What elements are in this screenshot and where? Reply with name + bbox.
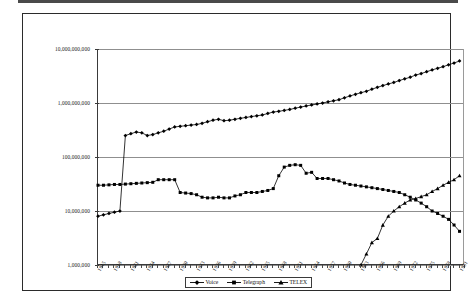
data-point [261,190,264,193]
data-point [255,114,259,118]
data-point [420,202,423,205]
y-tick-label: 100,000,000 [62,154,90,160]
data-point [294,163,297,166]
data-point [135,182,138,185]
data-point [113,210,117,214]
data-point [266,112,270,116]
triangle-marker-icon [274,279,288,286]
data-point [316,177,319,180]
data-point [392,190,395,193]
x-tick-mark [437,265,438,268]
data-point [113,183,116,186]
data-point [167,127,171,131]
data-point [288,164,291,167]
data-point [277,174,280,177]
data-point [118,183,121,186]
x-tick-mark [256,265,257,268]
y-tick-mark [95,49,99,50]
data-point [321,177,324,180]
data-point [282,109,286,113]
data-point [244,116,248,120]
legend-item-telex: TELEX [274,279,307,286]
data-point [201,196,204,199]
data-point [102,213,106,217]
data-point [305,172,308,175]
data-series-layer [98,49,465,265]
data-point [453,224,456,227]
data-point [425,205,428,208]
diamond-marker-icon [190,279,204,286]
chart-page: 10,000,000,0001,000,000,000100,000,00010… [0,0,473,305]
data-point [315,102,319,106]
x-tick-mark [124,265,125,268]
data-point [348,94,352,98]
data-point [425,70,429,74]
data-point [397,79,401,83]
y-tick-label: 1,000,000,000 [58,100,90,106]
scan-artifact-top [18,0,458,3]
x-tick-mark [371,265,372,268]
data-point [375,85,379,89]
y-tick-mark [95,157,99,158]
data-point [403,77,407,81]
chart-frame: 10,000,000,0001,000,000,000100,000,00010… [22,13,451,291]
data-point [441,65,445,69]
data-point [327,177,330,180]
x-tick-mark [157,265,158,268]
data-point [381,84,385,88]
data-point [173,125,177,129]
plot-area [97,49,464,265]
data-point [129,132,133,136]
data-point [124,183,127,186]
data-point [403,201,407,205]
x-tick-mark [174,265,175,268]
x-tick-mark [190,265,191,268]
data-point [293,106,297,110]
series-line [98,61,460,216]
data-point [239,116,243,120]
square-marker-icon [227,279,241,286]
legend-label: TELEX [289,280,307,286]
x-tick-mark [338,265,339,268]
data-point [354,184,357,187]
data-point [458,59,462,63]
data-point [326,100,330,104]
data-point [447,63,451,67]
x-tick-mark [387,265,388,268]
data-point [145,134,149,138]
data-point [200,121,204,125]
y-tick-label: 10,000,000 [65,208,90,214]
x-tick-mark [141,265,142,268]
data-point [140,131,144,135]
data-point [332,99,336,103]
data-point [283,166,286,169]
data-point [255,191,258,194]
series-telex [359,174,462,267]
data-point [168,178,171,181]
data-point [365,185,368,188]
data-point [102,184,105,187]
data-point [386,82,390,86]
data-point [96,214,100,218]
data-point [217,117,221,121]
data-point [447,180,451,184]
data-point [107,183,110,186]
data-point [217,196,220,199]
data-point [228,118,232,122]
data-point [310,171,313,174]
data-point [211,118,215,122]
x-tick-mark [404,265,405,268]
data-point [370,87,374,91]
data-point [271,110,275,114]
data-point [249,115,253,119]
data-point [332,178,335,181]
data-point [272,187,275,190]
data-point [441,183,445,187]
data-point [310,103,314,107]
x-tick-mark [272,265,273,268]
data-point [425,193,429,197]
data-point [348,183,351,186]
data-point [228,196,231,199]
series-line [361,176,460,265]
series-voice [96,59,461,218]
